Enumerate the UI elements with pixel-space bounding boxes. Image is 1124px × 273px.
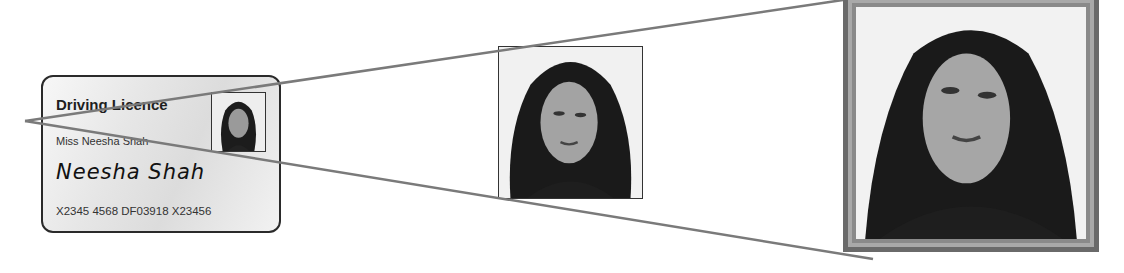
card-number: X2345 4568 DF03918 X23456 [56, 205, 211, 217]
card-photo [211, 92, 266, 152]
framed-photo-image [856, 7, 1086, 239]
card-signature: Neesha Shah [56, 160, 205, 184]
portrait-icon [856, 7, 1086, 239]
framed-photo [843, 0, 1099, 252]
driving-licence-card: Driving Licence Miss Neesha Shah Neesha … [41, 75, 281, 233]
portrait-icon [499, 47, 642, 198]
card-title: Driving Licence [56, 96, 168, 113]
card-holder-name: Miss Neesha Shah [56, 135, 148, 147]
portrait-icon [212, 93, 265, 151]
enlarged-photo [498, 46, 643, 199]
